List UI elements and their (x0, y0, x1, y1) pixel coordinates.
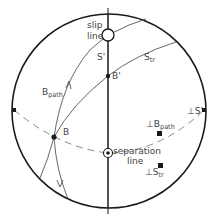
perp-s-tr-point (158, 163, 163, 168)
perp-s-prime-label: ⊥S' (187, 106, 203, 116)
primitive-circle (12, 14, 206, 208)
b-prime-point (106, 74, 110, 78)
stereonet-diagram: slip line S' B' Str Bpath B ⊥S' ⊥Bpath s… (0, 0, 216, 220)
slip-line-point (102, 29, 114, 41)
perp-s-tr-sub: tr (159, 171, 165, 179)
separation-label-2: line (127, 156, 144, 166)
perp-b-path-main: ⊥B (146, 119, 160, 129)
b-path-label: Bpath (42, 87, 63, 99)
perp-b-path-point (157, 131, 162, 136)
b-path-sub: path (48, 91, 63, 99)
separation-label-1: separation (113, 146, 161, 156)
b-prime-label: B' (112, 71, 121, 81)
perp-b-path-label: ⊥Bpath (146, 119, 175, 131)
dashed-great-circle (14, 110, 204, 153)
perp-b-path-sub: path (160, 123, 175, 131)
slip-line-label-2: line (87, 31, 104, 41)
b-label: B (63, 127, 69, 137)
b-point (51, 134, 56, 139)
separation-line-center (106, 151, 110, 155)
s-tr-label: Str (144, 52, 155, 64)
slip-line-label-1: slip (87, 20, 103, 30)
perp-s-tr-main: ⊥S (145, 167, 159, 177)
s-tr-sub: tr (150, 56, 156, 64)
perp-s-tr-label: ⊥Str (145, 167, 164, 179)
s-prime-label: S' (97, 52, 105, 62)
left-edge-point (12, 108, 16, 112)
